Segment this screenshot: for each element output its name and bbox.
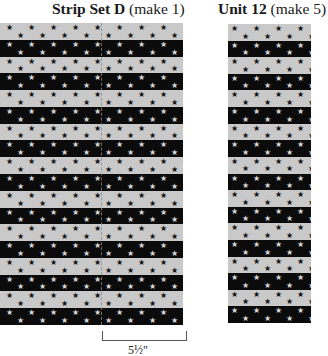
star-icon: ★: [17, 166, 24, 174]
star-icon: ★: [17, 82, 24, 90]
star-icon: ★: [297, 191, 304, 199]
star-icon: ★: [149, 317, 156, 325]
star-icon: ★: [105, 149, 112, 157]
star-icon: ★: [308, 116, 311, 124]
star-icon: ★: [275, 224, 282, 232]
star-icon: ★: [242, 249, 249, 257]
star-icon: ★: [286, 298, 293, 306]
star-icon: ★: [28, 225, 35, 233]
fabric-stripe: ★★★★★★★★: [228, 207, 311, 224]
star-icon: ★: [6, 175, 13, 183]
star-icon: ★: [83, 250, 90, 258]
star-icon: ★: [39, 317, 46, 325]
star-icon: ★: [242, 215, 249, 223]
fabric-stripe: ★★★★★★★★★★★★★★★★★: [0, 73, 183, 90]
star-icon: ★: [50, 276, 57, 284]
star-icon: ★: [72, 24, 79, 32]
star-icon: ★: [138, 108, 145, 116]
star-icon: ★: [297, 42, 304, 50]
star-icon: ★: [83, 149, 90, 157]
star-icon: ★: [116, 24, 123, 32]
star-icon: ★: [231, 91, 238, 99]
fabric-stripe: ★★★★★★★★★★★★★★★★★: [0, 107, 183, 124]
star-icon: ★: [286, 282, 293, 290]
star-icon: ★: [275, 175, 282, 183]
star-icon: ★: [83, 300, 90, 308]
star-icon: ★: [253, 307, 260, 315]
star-icon: ★: [28, 242, 35, 250]
star-icon: ★: [28, 24, 35, 32]
star-icon: ★: [149, 116, 156, 124]
star-icon: ★: [308, 232, 311, 240]
star-icon: ★: [297, 208, 304, 216]
cut-line: [101, 23, 102, 325]
star-icon: ★: [242, 298, 249, 306]
star-icon: ★: [149, 283, 156, 291]
star-icon: ★: [286, 132, 293, 140]
star-icon: ★: [308, 215, 311, 223]
star-icon: ★: [308, 315, 311, 323]
star-icon: ★: [182, 175, 183, 183]
star-icon: ★: [242, 82, 249, 90]
star-icon: ★: [160, 91, 167, 99]
star-icon: ★: [17, 99, 24, 107]
star-icon: ★: [297, 125, 304, 133]
star-icon: ★: [231, 274, 238, 282]
star-icon: ★: [50, 192, 57, 200]
star-icon: ★: [286, 249, 293, 257]
star-icon: ★: [116, 141, 123, 149]
star-icon: ★: [253, 258, 260, 266]
unit-title: Unit 12 (make 5): [218, 0, 326, 18]
star-icon: ★: [138, 225, 145, 233]
star-icon: ★: [286, 182, 293, 190]
star-icon: ★: [28, 292, 35, 300]
star-icon: ★: [50, 175, 57, 183]
star-icon: ★: [286, 33, 293, 41]
star-icon: ★: [308, 99, 311, 107]
star-icon: ★: [39, 233, 46, 241]
star-icon: ★: [264, 215, 271, 223]
star-icon: ★: [28, 91, 35, 99]
star-icon: ★: [127, 82, 134, 90]
star-icon: ★: [6, 141, 13, 149]
star-icon: ★: [116, 91, 123, 99]
fabric-stripe: ★★★★★★★★★★★★★★★★★: [0, 23, 183, 40]
star-icon: ★: [72, 259, 79, 267]
star-icon: ★: [160, 108, 167, 116]
strip-set-title-bold: Strip Set D: [52, 0, 125, 17]
star-icon: ★: [275, 158, 282, 166]
star-icon: ★: [253, 191, 260, 199]
star-icon: ★: [105, 166, 112, 174]
star-icon: ★: [297, 258, 304, 266]
star-icon: ★: [253, 75, 260, 83]
star-icon: ★: [28, 58, 35, 66]
star-icon: ★: [105, 267, 112, 275]
star-icon: ★: [138, 158, 145, 166]
star-icon: ★: [171, 250, 178, 258]
star-icon: ★: [182, 242, 183, 250]
strip-set-title-quantity: (make 1): [125, 0, 184, 17]
star-icon: ★: [17, 283, 24, 291]
star-icon: ★: [61, 82, 68, 90]
star-icon: ★: [182, 259, 183, 267]
star-icon: ★: [242, 99, 249, 107]
star-icon: ★: [105, 300, 112, 308]
star-icon: ★: [6, 192, 13, 200]
star-icon: ★: [308, 165, 311, 173]
star-icon: ★: [6, 292, 13, 300]
star-icon: ★: [264, 249, 271, 257]
fabric-stripe: ★★★★★★★★: [228, 290, 311, 307]
star-icon: ★: [149, 300, 156, 308]
star-icon: ★: [308, 249, 311, 257]
star-icon: ★: [242, 182, 249, 190]
star-icon: ★: [50, 74, 57, 82]
star-icon: ★: [127, 233, 134, 241]
star-icon: ★: [6, 209, 13, 217]
strip-set-diagram: ★★★★★★★★★★★★★★★★★★★★★★★★★★★★★★★★★★★★★★★★…: [0, 23, 183, 325]
star-icon: ★: [149, 132, 156, 140]
star-icon: ★: [160, 309, 167, 317]
star-icon: ★: [39, 300, 46, 308]
star-icon: ★: [127, 216, 134, 224]
star-icon: ★: [127, 149, 134, 157]
star-icon: ★: [242, 132, 249, 140]
